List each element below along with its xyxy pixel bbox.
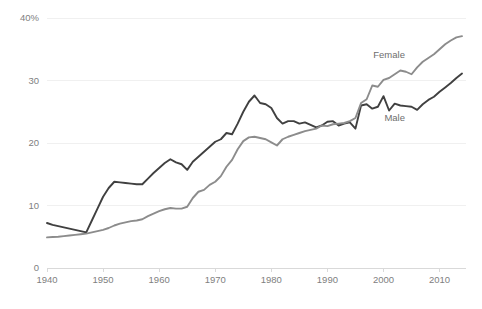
x-tick-label-1980: 1980	[261, 274, 282, 285]
y-tick-label-20: 20	[28, 137, 39, 148]
chart-canvas: 010203040% 19401950196019701980199020002…	[0, 0, 482, 309]
series-line-male	[47, 74, 462, 233]
data-series-lines	[47, 36, 462, 237]
x-tick-label-1970: 1970	[205, 274, 226, 285]
line-chart: 010203040% 19401950196019701980199020002…	[0, 0, 482, 309]
x-tick-label-1990: 1990	[317, 274, 338, 285]
y-tick-label-10: 10	[28, 200, 39, 211]
series-line-female	[47, 36, 462, 237]
x-tick-label-2000: 2000	[373, 274, 394, 285]
x-tick-label-1960: 1960	[149, 274, 170, 285]
x-tick-label-1940: 1940	[36, 274, 57, 285]
x-axis-tick-labels: 19401950196019701980199020002010	[36, 274, 450, 285]
y-tick-label-30: 30	[28, 75, 39, 86]
x-tick-label-2010: 2010	[429, 274, 450, 285]
y-tick-label-0: 0	[34, 262, 39, 273]
x-axis-tick-marks	[47, 268, 440, 272]
series-label-female: Female	[373, 49, 405, 60]
y-tick-label-40: 40%	[20, 12, 40, 23]
x-tick-label-1950: 1950	[93, 274, 114, 285]
y-axis-tick-labels: 010203040%	[20, 12, 40, 273]
series-label-male: Male	[384, 112, 405, 123]
